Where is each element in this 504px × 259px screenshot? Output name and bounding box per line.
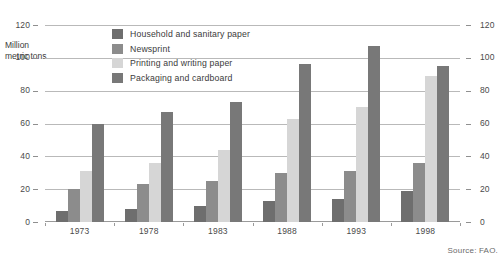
bar-1988-series-2 bbox=[287, 119, 299, 222]
bar-1993-series-0 bbox=[332, 199, 344, 222]
bar-1973-series-3 bbox=[92, 124, 104, 223]
y-tick-label-right-60: 60 bbox=[480, 119, 490, 128]
bar-group-1988 bbox=[253, 25, 322, 222]
y-tick-label-left-80: 80 bbox=[20, 86, 30, 95]
bar-group-1993 bbox=[322, 25, 391, 222]
legend-item-2: Printing and writing paper bbox=[112, 56, 250, 71]
x-tick-mark-6 bbox=[460, 223, 461, 226]
x-tick-label-1988: 1988 bbox=[253, 223, 322, 239]
y-tick-mark-right-120 bbox=[466, 25, 471, 26]
y-tick-label-left-60: 60 bbox=[20, 119, 30, 128]
bar-1983-series-2 bbox=[218, 150, 230, 222]
y-tick-label-right-40: 40 bbox=[480, 152, 490, 161]
bar-1988-series-1 bbox=[275, 173, 287, 222]
legend-item-0: Household and sanitary paper bbox=[112, 27, 250, 42]
bar-1973-series-0 bbox=[56, 211, 68, 222]
bar-1978-series-1 bbox=[137, 184, 149, 222]
y-axis-left: 020406080100120 bbox=[0, 25, 38, 222]
legend-swatch-icon-0 bbox=[112, 29, 123, 39]
x-tick-label-1998: 1998 bbox=[391, 223, 460, 239]
bar-1998-series-0 bbox=[401, 191, 413, 222]
bar-1993-series-1 bbox=[344, 171, 356, 222]
y-tick-mark-right-100 bbox=[466, 58, 471, 59]
chart-container: Million metric tons 020406080100120 0204… bbox=[0, 0, 504, 259]
x-tick-label-1978: 1978 bbox=[114, 223, 183, 239]
y-tick-label-left-40: 40 bbox=[20, 152, 30, 161]
bar-1998-series-3 bbox=[437, 66, 449, 222]
y-tick-mark-left-60 bbox=[33, 124, 38, 125]
bar-1993-series-3 bbox=[368, 46, 380, 222]
x-axis: 197319781983198819931998 bbox=[45, 223, 460, 239]
x-tick-mark-2 bbox=[183, 223, 184, 226]
bar-1973-series-2 bbox=[80, 171, 92, 222]
y-tick-label-right-20: 20 bbox=[480, 185, 490, 194]
bar-1983-series-3 bbox=[230, 102, 242, 222]
bar-1998-series-1 bbox=[413, 163, 425, 222]
bar-1978-series-0 bbox=[125, 209, 137, 222]
bar-group-1998 bbox=[391, 25, 460, 222]
bar-group-1973 bbox=[45, 25, 114, 222]
source-note: Source: FAO. bbox=[448, 246, 498, 255]
legend-label-0: Household and sanitary paper bbox=[130, 29, 250, 39]
y-tick-mark-left-0 bbox=[33, 222, 38, 223]
x-tick-mark-5 bbox=[391, 223, 392, 226]
bar-1998-series-2 bbox=[425, 76, 437, 222]
bar-1978-series-3 bbox=[161, 112, 173, 222]
y-tick-label-right-100: 100 bbox=[480, 53, 494, 62]
legend-item-3: Packaging and cardboard bbox=[112, 71, 250, 86]
bar-1988-series-0 bbox=[263, 201, 275, 222]
bar-1988-series-3 bbox=[299, 64, 311, 222]
y-tick-label-right-120: 120 bbox=[480, 21, 494, 30]
y-tick-mark-right-60 bbox=[466, 124, 471, 125]
y-tick-mark-right-0 bbox=[466, 222, 471, 223]
y-tick-label-left-20: 20 bbox=[20, 185, 30, 194]
x-tick-label-1983: 1983 bbox=[183, 223, 252, 239]
legend-label-2: Printing and writing paper bbox=[130, 58, 232, 68]
y-tick-mark-right-40 bbox=[466, 156, 471, 157]
x-tick-label-1993: 1993 bbox=[322, 223, 391, 239]
legend-swatch-icon-1 bbox=[112, 44, 123, 54]
legend-label-3: Packaging and cardboard bbox=[130, 73, 232, 83]
y-tick-mark-left-100 bbox=[33, 58, 38, 59]
y-tick-mark-left-40 bbox=[33, 156, 38, 157]
y-tick-mark-right-20 bbox=[466, 189, 471, 190]
legend-label-1: Newsprint bbox=[130, 44, 170, 54]
plot-area bbox=[45, 25, 460, 222]
bar-1983-series-1 bbox=[206, 181, 218, 222]
bar-1973-series-1 bbox=[68, 189, 80, 222]
chart-legend: Household and sanitary paperNewsprintPri… bbox=[112, 27, 250, 85]
x-tick-mark-4 bbox=[322, 223, 323, 226]
x-tick-mark-3 bbox=[253, 223, 254, 226]
x-tick-mark-0 bbox=[45, 223, 46, 226]
y-tick-mark-left-20 bbox=[33, 189, 38, 190]
legend-swatch-icon-2 bbox=[112, 58, 123, 68]
bar-1993-series-2 bbox=[356, 107, 368, 222]
bar-1978-series-2 bbox=[149, 163, 161, 222]
y-tick-mark-left-80 bbox=[33, 91, 38, 92]
bar-groups bbox=[45, 25, 460, 222]
bar-1983-series-0 bbox=[194, 206, 206, 222]
x-tick-label-1973: 1973 bbox=[45, 223, 114, 239]
y-tick-label-left-120: 120 bbox=[16, 21, 30, 30]
legend-swatch-icon-3 bbox=[112, 73, 123, 83]
y-tick-label-left-0: 0 bbox=[25, 218, 30, 227]
y-tick-label-right-80: 80 bbox=[480, 86, 490, 95]
legend-item-1: Newsprint bbox=[112, 42, 250, 57]
x-tick-mark-1 bbox=[114, 223, 115, 226]
y-axis-right: 020406080100120 bbox=[466, 25, 502, 222]
y-tick-label-right-0: 0 bbox=[480, 218, 485, 227]
y-tick-mark-left-120 bbox=[33, 25, 38, 26]
y-tick-mark-right-80 bbox=[466, 91, 471, 92]
y-tick-label-left-100: 100 bbox=[16, 53, 30, 62]
